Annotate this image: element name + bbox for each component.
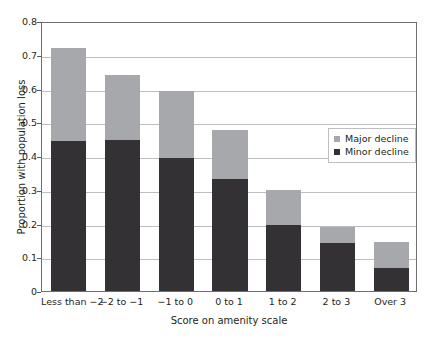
x-axis-tick-label: 2 to 3: [310, 295, 364, 309]
y-axis-tick-label: 0.5: [0, 117, 37, 129]
bar-group[interactable]: [320, 227, 355, 291]
x-axis-tick-label: −1 to 0: [148, 295, 202, 309]
bar-segment-major-decline[interactable]: [159, 91, 194, 158]
bar-segment-minor-decline[interactable]: [374, 268, 409, 291]
bar-group[interactable]: [374, 242, 409, 291]
y-axis-tick-label: 0.7: [0, 50, 37, 62]
bar-group[interactable]: [212, 130, 247, 291]
x-axis-title: Score on amenity scale: [41, 314, 417, 328]
x-axis-tick-label: −2 to −1: [95, 295, 149, 309]
y-axis-tick-label: 0: [0, 286, 37, 298]
bar-segment-minor-decline[interactable]: [159, 158, 194, 291]
legend-item-label: Minor decline: [345, 145, 409, 158]
bar-group[interactable]: [159, 91, 194, 291]
bar-group[interactable]: [266, 190, 301, 291]
x-axis-tick-label: Less than −2: [41, 295, 95, 309]
bar-segment-major-decline[interactable]: [266, 190, 301, 225]
x-axis-tick-labels: Less than −2−2 to −1−1 to 00 to 11 to 22…: [41, 295, 417, 309]
bar-segment-minor-decline[interactable]: [320, 243, 355, 291]
y-axis-tick-label: 0.3: [0, 185, 37, 197]
y-axis-tick-label: 0.2: [0, 219, 37, 231]
x-axis-tick-label: 0 to 1: [202, 295, 256, 309]
bar-segment-minor-decline[interactable]: [51, 141, 86, 291]
chart-legend: Major declineMinor decline: [328, 128, 416, 163]
y-axis-tick-labels: 00.10.20.30.40.50.60.70.8: [0, 22, 37, 292]
bar-segment-major-decline[interactable]: [105, 75, 140, 140]
x-axis-tick-label: 1 to 2: [256, 295, 310, 309]
bar-segment-major-decline[interactable]: [212, 130, 247, 179]
y-axis-tick-label: 0.6: [0, 84, 37, 96]
y-axis-tick-label: 0.8: [0, 16, 37, 28]
legend-swatch-icon: [334, 136, 340, 142]
bar-segment-major-decline[interactable]: [374, 242, 409, 268]
legend-item[interactable]: Major decline: [334, 132, 409, 145]
legend-item-label: Major decline: [345, 132, 409, 145]
bar-group[interactable]: [105, 75, 140, 291]
x-axis-tick-label: Over 3: [363, 295, 417, 309]
y-axis-tick-mark: [37, 292, 41, 293]
bar-segment-major-decline[interactable]: [51, 48, 86, 141]
bar-segment-major-decline[interactable]: [320, 227, 355, 244]
legend-item[interactable]: Minor decline: [334, 145, 409, 158]
bar-segment-minor-decline[interactable]: [212, 179, 247, 291]
legend-swatch-icon: [334, 149, 340, 155]
bar-segment-minor-decline[interactable]: [105, 140, 140, 291]
bar-group[interactable]: [51, 48, 86, 291]
y-axis-tick-label: 0.4: [0, 151, 37, 163]
y-axis-tick-label: 0.1: [0, 252, 37, 264]
bar-segment-minor-decline[interactable]: [266, 225, 301, 291]
bar-chart-figure: Proportion with population loss 00.10.20…: [0, 0, 431, 342]
